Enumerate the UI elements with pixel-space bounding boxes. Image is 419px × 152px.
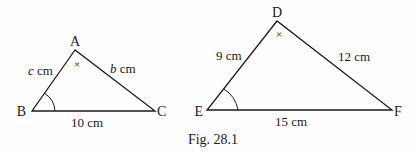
vertex-b-label: B xyxy=(17,104,26,119)
angle-e-arc xyxy=(224,89,238,110)
triangle-def: × D E F 9 cm 12 cm 15 cm xyxy=(194,5,402,129)
angle-b-arc xyxy=(45,93,56,111)
side-ac-label: b cm xyxy=(110,61,136,76)
similar-triangles-diagram: × A B C c cm b cm 10 cm × D E F 9 cm 12 … xyxy=(0,0,419,152)
vertex-f-label: F xyxy=(394,104,402,119)
side-bc-label: 10 cm xyxy=(71,115,103,130)
side-ef-label: 15 cm xyxy=(275,114,307,129)
vertex-a-label: A xyxy=(70,34,81,49)
vertex-e-label: E xyxy=(194,104,203,119)
side-ab-unit: cm xyxy=(34,63,53,78)
angle-d-cross-mark: × xyxy=(276,28,282,40)
vertex-c-label: C xyxy=(157,104,166,119)
triangle-abc: × A B C c cm b cm 10 cm xyxy=(17,34,167,130)
triangle-abc-outline xyxy=(32,50,155,111)
figure-canvas: × A B C c cm b cm 10 cm × D E F 9 cm 12 … xyxy=(0,0,419,152)
angle-a-cross-mark: × xyxy=(74,58,80,70)
side-df-label: 12 cm xyxy=(338,49,370,64)
side-ac-unit: cm xyxy=(117,61,136,76)
figure-caption: Fig. 28.1 xyxy=(188,132,238,147)
side-de-label: 9 cm xyxy=(216,48,242,63)
vertex-d-label: D xyxy=(272,5,282,20)
side-ab-label: c cm xyxy=(28,63,53,78)
triangle-def-outline xyxy=(207,21,392,110)
